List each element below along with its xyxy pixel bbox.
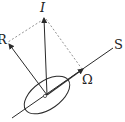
- dashed-line-i-r: [8, 19, 44, 42]
- label-r: R: [0, 32, 8, 47]
- vector-omega: [47, 69, 83, 95]
- vector-diagram: I R S Ω: [0, 0, 125, 122]
- label-i: I: [39, 0, 46, 15]
- dashed-line-i-omega: [46, 19, 82, 69]
- label-omega: Ω: [82, 72, 93, 87]
- vector-r: [9, 44, 47, 95]
- origin-point: [43, 94, 46, 97]
- vector-i: [44, 18, 47, 95]
- s-axis-line: [12, 48, 113, 118]
- label-s: S: [114, 37, 123, 52]
